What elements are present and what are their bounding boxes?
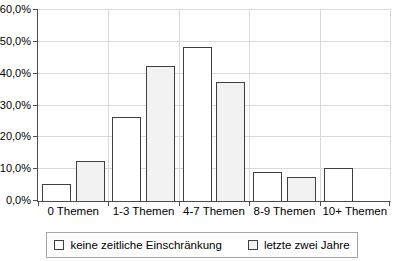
gridline-h bbox=[38, 136, 390, 137]
bar bbox=[112, 117, 141, 201]
gridline-v bbox=[108, 10, 109, 201]
gridline-v bbox=[320, 10, 321, 201]
x-axis-label: 4-7 Themen bbox=[179, 205, 249, 217]
y-axis-tick bbox=[33, 168, 38, 169]
gridline-v bbox=[179, 10, 180, 201]
legend-item: keine zeitliche Einschränkung bbox=[54, 239, 222, 251]
bar bbox=[76, 161, 105, 201]
gridline-h bbox=[38, 73, 390, 74]
plot-area bbox=[37, 9, 391, 202]
y-tick-label: 30,0% bbox=[0, 99, 31, 111]
gridline-v bbox=[249, 10, 250, 201]
x-axis-label: 8-9 Themen bbox=[249, 205, 319, 217]
legend-label: keine zeitliche Einschränkung bbox=[70, 239, 222, 251]
bar bbox=[216, 82, 245, 201]
x-axis-label: 1-3 Themen bbox=[108, 205, 178, 217]
legend-swatch-icon bbox=[248, 240, 258, 250]
bar-chart: 0,0%10,0%20,0%30,0%40,0%50,0%60,0% 0 The… bbox=[0, 0, 393, 261]
bar bbox=[42, 184, 71, 202]
y-tick-label: 20,0% bbox=[0, 130, 31, 142]
y-axis-tick bbox=[33, 200, 38, 201]
x-axis-label: 10+ Themen bbox=[320, 205, 390, 217]
x-axis-labels: 0 Themen1-3 Themen4-7 Themen8-9 Themen10… bbox=[38, 205, 390, 221]
legend-item: letzte zwei Jahre bbox=[248, 239, 350, 251]
bar bbox=[253, 172, 282, 201]
y-tick-label: 60,0% bbox=[0, 3, 31, 15]
y-axis-tick bbox=[33, 105, 38, 106]
gridline-h bbox=[38, 41, 390, 42]
y-tick-label: 50,0% bbox=[0, 35, 31, 47]
legend-swatch-icon bbox=[54, 240, 64, 250]
bar bbox=[324, 168, 353, 201]
y-axis-tick bbox=[33, 41, 38, 42]
legend-label: letzte zwei Jahre bbox=[264, 239, 350, 251]
y-tick-label: 10,0% bbox=[0, 162, 31, 174]
bar bbox=[146, 66, 175, 201]
y-axis-labels: 0,0%10,0%20,0%30,0%40,0%50,0%60,0% bbox=[0, 9, 33, 201]
y-axis-tick bbox=[33, 9, 38, 10]
legend: keine zeitliche Einschränkungletzte zwei… bbox=[46, 232, 358, 258]
bar bbox=[183, 47, 212, 201]
y-axis-tick bbox=[33, 73, 38, 74]
gridline-h bbox=[38, 105, 390, 106]
y-tick-label: 40,0% bbox=[0, 67, 31, 79]
y-tick-label: 0,0% bbox=[6, 194, 31, 206]
x-axis-label: 0 Themen bbox=[38, 205, 108, 217]
bar bbox=[287, 177, 316, 201]
y-axis-tick bbox=[33, 136, 38, 137]
